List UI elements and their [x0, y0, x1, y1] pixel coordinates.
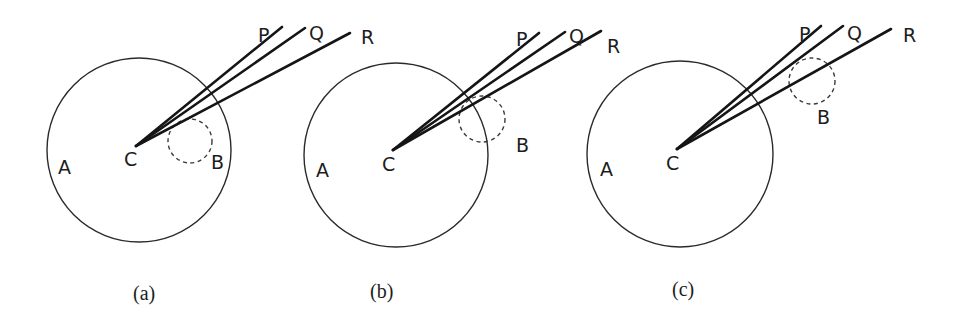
label-r-c: R — [903, 24, 916, 46]
label-c-c: C — [666, 152, 679, 174]
label-b-a: B — [211, 151, 224, 173]
label-c-a: C — [124, 148, 137, 170]
figure-diagram: A C B P Q R (a) A C B P Q R (b) A C B P … — [0, 0, 956, 325]
label-p-b: P — [516, 28, 527, 50]
label-p-a: P — [258, 24, 269, 46]
label-q-b: Q — [569, 25, 584, 47]
ray-r-b — [393, 31, 601, 150]
label-p-c: P — [799, 23, 810, 45]
label-c-b: C — [382, 153, 395, 175]
big-circle-c — [587, 61, 773, 247]
label-r-a: R — [361, 26, 374, 48]
label-b-b: B — [516, 134, 529, 156]
panel-c: A C B P Q R (c) — [587, 22, 916, 301]
label-q-a: Q — [309, 22, 324, 44]
ray-r-a — [136, 33, 350, 146]
label-b-c: B — [817, 106, 830, 128]
ray-q-b — [393, 32, 565, 150]
ray-r-c — [677, 29, 891, 149]
caption-b: (b) — [370, 280, 393, 303]
caption-c: (c) — [672, 278, 694, 301]
label-a-b: A — [316, 159, 329, 181]
ray-q-c — [677, 26, 843, 149]
caption-a: (a) — [133, 282, 155, 305]
label-r-b: R — [607, 35, 620, 57]
label-a-c: A — [600, 158, 613, 180]
big-circle-b — [304, 63, 488, 247]
big-circle-a — [47, 58, 231, 242]
small-dashed-circle-b — [459, 96, 505, 142]
label-q-c: Q — [847, 22, 862, 44]
label-a-a: A — [58, 156, 71, 178]
panel-b: A C B P Q R (b) — [304, 25, 620, 303]
ray-q-a — [136, 28, 305, 146]
ray-p-b — [393, 33, 539, 150]
